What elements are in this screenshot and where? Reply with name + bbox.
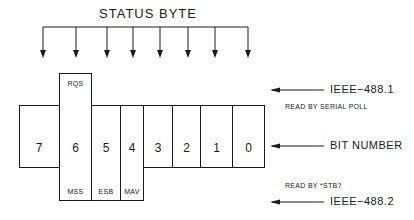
stb-query-note: READ BY *STB? — [285, 182, 342, 189]
bit-4-number: 4 — [120, 141, 144, 155]
bit-number-label: BIT NUMBER — [330, 139, 403, 151]
mav-label: MAV — [120, 188, 144, 195]
bit-1-number: 1 — [200, 141, 233, 155]
ieee-488-2-label: IEEE−488.2 — [330, 195, 394, 207]
bit-5-number: 5 — [91, 141, 121, 155]
status-byte-diagram-lines — [0, 0, 414, 220]
mss-label: MSS — [59, 188, 92, 195]
bit-3-number: 3 — [143, 141, 173, 155]
serial-poll-note: READ BY SERIAL POLL — [285, 103, 368, 110]
bit-7-number: 7 — [19, 141, 59, 155]
bit-2-number: 2 — [172, 141, 201, 155]
rqs-label: RQS — [59, 80, 92, 87]
diagram-title: STATUS BYTE — [0, 6, 296, 21]
ieee-488-1-label: IEEE−488.1 — [330, 83, 394, 95]
bit-0-number: 0 — [232, 141, 265, 155]
bit-6-number: 6 — [59, 141, 92, 155]
esb-label: ESB — [91, 188, 121, 195]
